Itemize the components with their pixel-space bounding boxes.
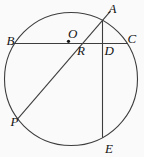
label-c: C <box>128 31 137 46</box>
label-r: R <box>76 43 85 58</box>
label-o: O <box>68 26 78 41</box>
figure-svg: ABCDEOPR <box>0 0 144 157</box>
geometry-figure: ABCDEOPR <box>0 0 144 157</box>
chord-pa <box>18 11 111 119</box>
label-e: E <box>104 141 113 156</box>
label-p: P <box>10 114 19 129</box>
label-a: A <box>108 1 117 16</box>
label-d: D <box>104 43 115 58</box>
label-b: B <box>7 33 15 48</box>
